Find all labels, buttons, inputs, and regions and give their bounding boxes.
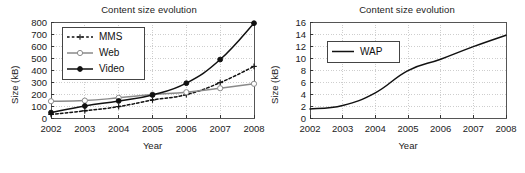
legend-label-wap: WAP (360, 46, 383, 57)
legend-right: WAP (327, 41, 399, 62)
plot-area-right: WAP (262, 0, 524, 173)
plot-area-left: MMSWebVideo (0, 0, 262, 173)
legend-label-video: Video (99, 63, 125, 74)
figure-container: Content size evolution Size (kB) Year 01… (0, 0, 525, 173)
chart-panel-right: Content size evolution Size (kB) Year 02… (262, 0, 524, 173)
chart-panel-left: Content size evolution Size (kB) Year 01… (0, 0, 262, 173)
legend-left: MMSWebVideo (62, 27, 144, 79)
legend-label-web: Web (99, 47, 120, 58)
legend-label-mms: MMS (99, 31, 123, 42)
